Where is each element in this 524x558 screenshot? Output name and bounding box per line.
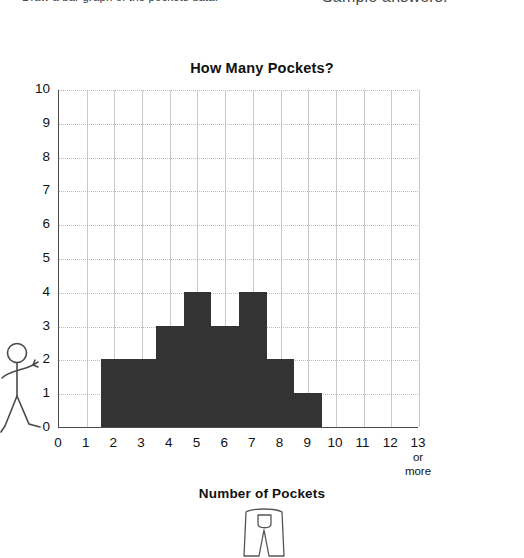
bar-series — [59, 90, 418, 427]
y-axis-tick-label: 10 — [20, 81, 50, 96]
y-axis-tick-label: 3 — [20, 318, 50, 333]
plot-area — [58, 90, 418, 428]
bar — [184, 292, 212, 427]
bar — [294, 393, 322, 427]
bar — [128, 359, 156, 427]
instruction-bar: Draw a bar graph of the pockets data. Sa… — [0, 0, 524, 11]
y-axis-tick-label: 5 — [20, 250, 50, 265]
y-axis-tick-label: 4 — [20, 284, 50, 299]
gridline-vertical — [419, 90, 420, 427]
x-axis-label: Number of Pockets — [0, 486, 524, 501]
x-axis-tick-label: 13ormore — [401, 435, 435, 478]
bar — [156, 326, 184, 427]
y-axis-tick-label: 6 — [20, 216, 50, 231]
bar — [211, 326, 239, 427]
instruction-text: Draw a bar graph of the pockets data. — [22, 0, 218, 3]
y-axis-tick-label: 7 — [20, 182, 50, 197]
bar — [239, 292, 267, 427]
x-axis-tick-label-extra: or — [401, 450, 435, 464]
pants-drawing-icon — [232, 506, 296, 558]
bar — [267, 359, 295, 427]
x-axis-tick-label-extra: more — [401, 464, 435, 478]
y-axis-tick-label: 8 — [20, 149, 50, 164]
sample-answers-annotation: Sample answers. — [322, 0, 448, 6]
chart-title: How Many Pockets? — [0, 60, 524, 76]
y-axis-tick-label: 9 — [20, 115, 50, 130]
bar — [101, 359, 129, 427]
stick-figure-icon — [0, 338, 46, 438]
